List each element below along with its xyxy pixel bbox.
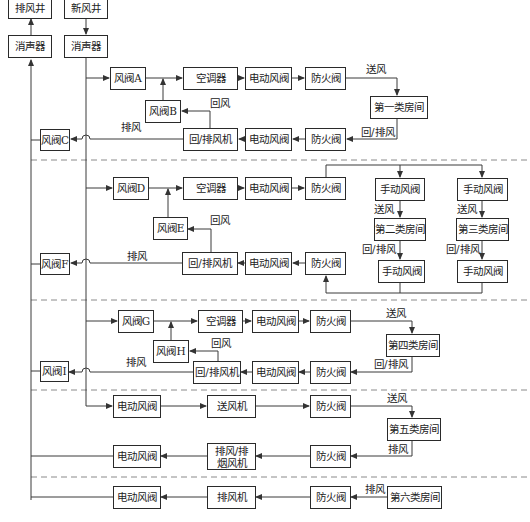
exhaust-shaft-box: 排风井 [8,0,52,19]
return-air-label-1: 回风 [210,97,230,109]
return-air-label-3: 回风 [211,337,231,349]
exhaust-label-1: 排风 [121,121,141,133]
damper-a-box: 风阀A [110,67,146,90]
motor-damper-supply-1-box: 电动风阀 [245,67,292,90]
fire-damper-return-3-box: 防火阀 [310,361,351,384]
motor-damper-supply-3-box: 电动风阀 [252,310,299,333]
ahu-1-box: 空调器 [183,67,238,90]
supply-label-room2: 送风 [374,203,394,215]
damper-c-box: 风阀C [40,129,70,151]
damper-g-box: 风阀G [118,310,154,333]
return-label-room2: 回/排风 [362,243,396,255]
room-type-5-box: 第五类房间 [387,418,441,441]
silencer-fresh-box: 消声器 [64,35,108,58]
room-type-2-box: 第二类房间 [374,218,426,241]
return-label-3: 回/排风 [374,358,408,370]
silencer-exhaust-box: 消声器 [8,35,52,58]
fire-damper-supply-2-box: 防火阀 [305,177,346,200]
fire-damper-return-1-box: 防火阀 [305,128,346,151]
supply-label-room3: 送风 [457,203,477,215]
motor-damper-return-3-box: 电动风阀 [252,361,299,384]
ahu-3-box: 空调器 [198,310,243,333]
motor-damper-supply-2-box: 电动风阀 [245,177,292,200]
room-type-3-box: 第三类房间 [456,218,509,241]
return-label-1: 回/排风 [361,126,395,138]
exhaust-label-4: 排风 [388,443,408,455]
fire-damper-supply-3-box: 防火阀 [310,310,351,333]
fire-damper-5-box: 防火阀 [310,486,351,509]
room-type-6-box: 第六类房间 [387,486,442,509]
manual-damper-room3-bottom-box: 手动风阀 [457,260,508,283]
exhaust-fan-box: 排风机 [207,486,256,509]
exhaust-smoke-fan-box: 排风/排烟风机 [207,443,256,470]
damper-i-box: 风阀I [40,361,69,382]
manual-damper-room2-top-box: 手动风阀 [375,178,425,201]
exhaust-label-3: 排风 [126,356,146,368]
return-air-label-2: 回风 [210,214,230,226]
motor-damper-5-box: 电动风阀 [113,486,161,509]
exhaust-label-2: 排风 [127,250,147,262]
return-label-room3: 回/排风 [446,243,480,255]
damper-d-box: 风阀D [113,177,149,200]
exhaust-label-5: 排风 [365,483,385,495]
fire-damper-supply-1-box: 防火阀 [305,67,346,90]
supply-label-4: 送风 [387,392,407,404]
hvac-diagram: 排风井 新风井 消声器 消声器 风阀A 空调器 电动风阀 防火阀 送风 第一类房… [0,0,530,522]
motor-damper-return-2-box: 电动风阀 [245,252,292,275]
motor-damper-exhaust-4-box: 电动风阀 [113,445,161,468]
ahu-2-box: 空调器 [183,177,238,200]
supply-fan-box: 送风机 [207,395,256,418]
manual-damper-room3-top-box: 手动风阀 [457,178,508,201]
motor-damper-return-1-box: 电动风阀 [245,128,292,151]
motor-damper-supply-4-box: 电动风阀 [113,395,161,418]
fresh-air-shaft-box: 新风井 [64,0,108,19]
fire-damper-return-2-box: 防火阀 [305,252,346,275]
fire-damper-supply-4-box: 防火阀 [310,395,351,418]
fire-damper-exhaust-4-box: 防火阀 [310,445,351,468]
room-type-4-box: 第四类房间 [386,334,440,357]
room-type-1-box: 第一类房间 [370,96,428,119]
damper-e-box: 风阀E [153,217,188,240]
damper-f-box: 风阀F [40,253,70,275]
damper-h-box: 风阀H [153,340,189,363]
manual-damper-room2-bottom-box: 手动风阀 [378,260,425,283]
supply-label-3: 送风 [386,307,406,319]
return-fan-2-box: 回/排风机 [182,252,238,275]
supply-label-1: 送风 [366,63,386,75]
damper-b-box: 风阀B [145,100,181,123]
return-fan-1-box: 回/排风机 [183,128,238,151]
return-fan-3-box: 回/排风机 [193,361,241,384]
